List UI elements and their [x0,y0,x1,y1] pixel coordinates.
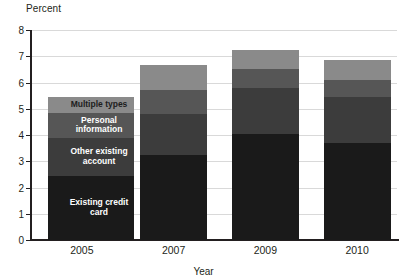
y-tick-mark [26,56,30,57]
y-tick-mark [26,30,30,31]
y-tick-label: 7 [18,51,24,62]
y-tick-label: 6 [18,77,24,88]
y-tick-mark [26,214,30,215]
bar-segment[interactable] [232,69,299,87]
legend-item[interactable]: Multiple types [64,97,134,113]
bar-segment[interactable] [232,134,299,240]
bar-segment[interactable] [232,88,299,134]
bar-stack[interactable] [140,65,207,240]
y-tick-mark [26,161,30,162]
x-tick-label: 2005 [48,244,115,256]
y-axis-title: Percent [26,3,61,14]
bar-segment[interactable] [140,65,207,90]
y-tick-label: 8 [18,25,24,36]
x-tick-label: 2009 [232,244,299,256]
legend-item[interactable]: Other existing account [64,138,134,176]
bar-segment[interactable] [232,50,299,70]
bar-segment[interactable] [324,80,391,97]
y-tick-label: 5 [18,103,24,114]
y-tick-mark [26,188,30,189]
bar-segment[interactable] [324,97,391,143]
y-tick-mark [26,109,30,110]
bar-segment[interactable] [324,60,391,80]
y-tick-label: 0 [18,235,24,246]
bar-segment[interactable] [140,90,207,114]
x-tick-label: 2007 [140,244,207,256]
legend-item[interactable]: Personal information [64,113,134,138]
x-tick-label: 2010 [324,244,391,256]
bar-stack[interactable] [232,50,299,240]
legend-item[interactable]: Existing credit card [64,176,134,240]
chart-legend: Multiple typesPersonal informationOther … [64,97,134,240]
stacked-bar-chart: Percent 012345678 2005200720092010 Multi… [0,0,407,278]
bar-segment[interactable] [140,114,207,155]
y-tick-mark [26,135,30,136]
y-tick-label: 2 [18,182,24,193]
y-tick-mark [26,240,30,241]
bar-segment[interactable] [324,143,391,240]
y-tick-label: 1 [18,208,24,219]
y-tick-label: 4 [18,130,24,141]
y-tick-label: 3 [18,156,24,167]
x-axis-title: Year [0,266,407,277]
bar-stack[interactable] [324,60,391,240]
bar-segment[interactable] [140,155,207,240]
plot-area: 012345678 2005200720092010 Multiple type… [30,30,397,240]
y-tick-mark [26,83,30,84]
